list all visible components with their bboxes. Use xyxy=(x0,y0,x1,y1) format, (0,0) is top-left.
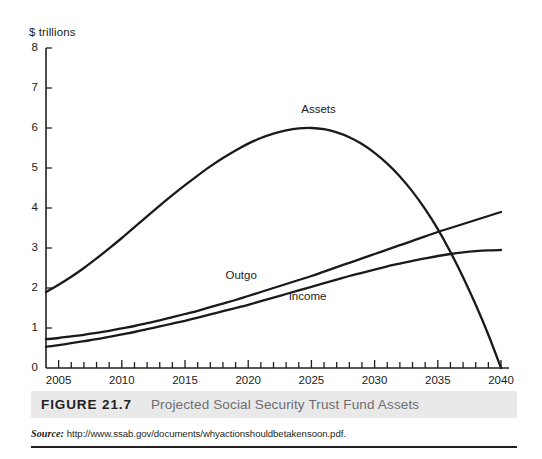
y-tick-label: 2 xyxy=(22,281,38,293)
series-label-income: Income xyxy=(289,290,327,302)
figure-title: Projected Social Security Trust Fund Ass… xyxy=(151,397,419,412)
trust-fund-line-chart xyxy=(0,0,542,395)
series-label-outgo: Outgo xyxy=(225,269,256,281)
x-tick-label: 2010 xyxy=(102,374,142,386)
y-tick-label: 4 xyxy=(22,201,38,213)
x-tick-label: 2025 xyxy=(291,374,331,386)
x-tick-label: 2005 xyxy=(39,374,79,386)
y-tick-label: 7 xyxy=(22,81,38,93)
y-axis-unit-label: $ trillions xyxy=(29,26,75,38)
chart-plot-area: $ trillions 012345678 200520102015202020… xyxy=(0,0,542,395)
source-note: Source:http://www.ssab.gov/documents/why… xyxy=(31,428,531,439)
source-url: http://www.ssab.gov/documents/whyactions… xyxy=(67,428,346,439)
figure-number: FIGURE 21.7 xyxy=(41,397,132,412)
source-label: Source: xyxy=(31,428,64,439)
y-tick-label: 0 xyxy=(22,361,38,373)
chart-axes xyxy=(46,48,509,368)
bottom-divider-rule xyxy=(31,446,517,448)
y-tick-label: 5 xyxy=(22,161,38,173)
y-tick-label: 3 xyxy=(22,241,38,253)
y-tick-label: 1 xyxy=(22,321,38,333)
chart-tick-marks xyxy=(46,48,501,368)
x-tick-label: 2020 xyxy=(228,374,268,386)
x-tick-label: 2015 xyxy=(165,374,205,386)
y-tick-label: 8 xyxy=(22,41,38,53)
figure-caption: FIGURE 21.7 Projected Social Security Tr… xyxy=(31,391,531,418)
x-tick-label: 2030 xyxy=(355,374,395,386)
chart-series-lines xyxy=(46,128,501,368)
figure-21-7: $ trillions 012345678 200520102015202020… xyxy=(0,0,542,459)
series-label-assets: Assets xyxy=(301,103,336,115)
x-tick-label: 2040 xyxy=(481,374,521,386)
x-tick-label: 2035 xyxy=(418,374,458,386)
y-tick-label: 6 xyxy=(22,121,38,133)
